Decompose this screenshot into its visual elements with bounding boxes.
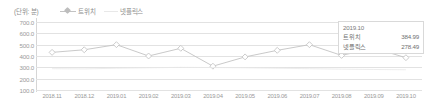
data-point-marker [81,47,87,53]
data-point-marker [146,53,152,59]
x-axis-tick: 2019.01 [107,93,127,99]
tooltip-row-twitch: 트위치 384.99 [343,32,419,41]
data-point-marker [242,54,248,60]
legend-item-netflix[interactable]: 넷플릭스 [104,6,143,16]
line-marker-icon [104,11,118,12]
x-axis-tick-labels: 2018.112018.122019.012019.022019.032019.… [0,92,428,108]
tooltip-label-netflix: 넷플릭스 [343,42,366,51]
data-point-marker [403,55,409,61]
x-axis-tick: 2019.10 [396,93,416,99]
series-line-netflix [52,67,406,69]
x-axis-tick: 2019.04 [203,93,223,99]
legend-item-twitch[interactable]: 트위치 [60,6,95,16]
data-point-marker [113,42,119,48]
tooltip-title: 2019.10 [343,24,419,31]
x-axis-tick: 2018.12 [74,93,94,99]
data-point-marker [49,49,55,55]
data-point-marker [306,42,312,48]
x-axis-tick: 2018.11 [43,93,62,99]
tooltip-callout: 2019.10 트위치 384.99 넷플릭스 278.49 [338,21,424,54]
x-axis-tick: 2019.08 [332,93,352,99]
line-chart: (단위: 분) 트위치 넷플릭스 700.0600.0500.0400.0300… [0,0,428,108]
tooltip-value-netflix: 278.49 [401,43,419,50]
legend-label-netflix: 넷플릭스 [120,6,143,16]
legend-label-twitch: 트위치 [78,6,95,16]
data-point-marker [210,63,216,69]
tooltip-row-netflix: 넷플릭스 278.49 [343,42,419,51]
x-axis-tick: 2019.09 [364,93,384,99]
x-axis-tick: 2019.05 [235,93,255,99]
data-point-marker [178,45,184,51]
x-axis-tick: 2019.06 [267,93,287,99]
unit-label: (단위: 분) [14,6,39,16]
chart-legend-bar: (단위: 분) 트위치 넷플릭스 [0,4,428,18]
x-axis-tick: 2019.03 [171,93,191,99]
tooltip-label-twitch: 트위치 [343,32,360,41]
data-point-marker [274,47,280,53]
x-axis-tick: 2019.02 [139,93,159,99]
tooltip-value-twitch: 384.99 [401,33,419,40]
x-axis-tick: 2019.07 [300,93,320,99]
line-diamond-marker-icon [60,11,76,12]
